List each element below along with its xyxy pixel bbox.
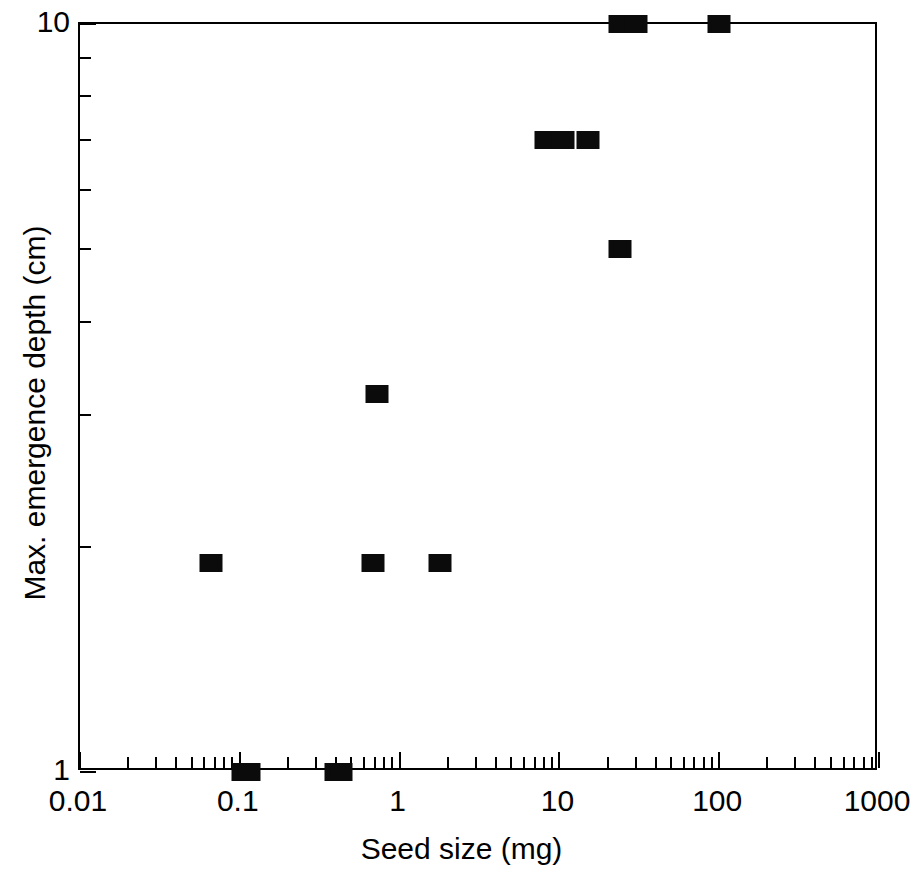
x-axis-minor-tick [191, 757, 193, 768]
x-axis-minor-tick [655, 757, 657, 768]
x-axis-minor-tick [607, 757, 609, 768]
x-axis-minor-tick [683, 757, 685, 768]
x-axis-minor-tick [175, 757, 177, 768]
data-point [199, 554, 222, 572]
x-axis-minor-tick [214, 757, 216, 768]
x-axis-title: Seed size (mg) [0, 832, 923, 866]
x-axis-tick-label: 0.1 [217, 786, 259, 816]
x-axis-tick-label: 1 [389, 786, 406, 816]
x-axis-minor-tick [495, 757, 497, 768]
x-axis-minor-tick [534, 757, 536, 768]
x-axis-minor-tick [711, 757, 713, 768]
scatter-plot-figure: 101 0.010.11101001000 Seed size (mg) Max… [0, 0, 923, 880]
x-axis-minor-tick [635, 757, 637, 768]
x-axis-minor-tick [814, 757, 816, 768]
data-point [238, 763, 261, 781]
data-point [361, 554, 384, 572]
x-axis-tick-label: 1000 [844, 786, 911, 816]
x-axis-tick-label: 100 [692, 786, 742, 816]
data-point [576, 131, 599, 149]
x-axis-minor-tick [203, 757, 205, 768]
x-axis-minor-tick [391, 757, 393, 768]
x-axis-minor-tick [794, 757, 796, 768]
x-axis-minor-tick [843, 757, 845, 768]
y-axis-minor-tick [80, 189, 91, 191]
x-axis-minor-tick [127, 757, 129, 768]
x-axis-minor-tick [551, 757, 553, 768]
x-axis-minor-tick [287, 757, 289, 768]
x-axis-minor-tick [766, 757, 768, 768]
x-axis-major-tick [79, 752, 81, 768]
x-axis-minor-tick [863, 757, 865, 768]
x-axis-minor-tick [363, 757, 365, 768]
y-axis-minor-tick [80, 57, 91, 59]
x-axis-major-tick [878, 752, 880, 768]
x-axis-minor-tick [155, 757, 157, 768]
x-axis-minor-tick [693, 757, 695, 768]
x-axis-major-tick [399, 752, 401, 768]
x-axis-tick-labels: 0.010.11101001000 [0, 786, 923, 826]
data-point [365, 385, 388, 403]
x-axis-major-tick [718, 752, 720, 768]
data-point [429, 554, 452, 572]
x-axis-minor-tick [523, 757, 525, 768]
x-axis-minor-tick [374, 757, 376, 768]
x-axis-minor-tick [703, 757, 705, 768]
data-point [624, 15, 647, 33]
plot-area [78, 22, 877, 770]
x-axis-tick-label: 10 [541, 786, 574, 816]
y-axis-minor-tick [80, 414, 91, 416]
x-axis-minor-tick [853, 757, 855, 768]
y-axis-title: Max. emergence depth (cm) [18, 33, 52, 793]
x-axis-minor-tick [223, 757, 225, 768]
data-point [708, 15, 731, 33]
y-axis-minor-tick [80, 321, 91, 323]
y-axis-major-tick [80, 23, 96, 25]
y-axis-tick-label: 1 [53, 755, 70, 785]
data-point [551, 131, 574, 149]
x-axis-minor-tick [830, 757, 832, 768]
x-axis-minor-tick [447, 757, 449, 768]
data-point [609, 240, 632, 258]
x-axis-minor-tick [510, 757, 512, 768]
x-axis-minor-tick [670, 757, 672, 768]
y-axis-minor-tick [80, 139, 91, 141]
x-axis-minor-tick [475, 757, 477, 768]
y-axis-minor-tick [80, 95, 91, 97]
data-point [330, 763, 353, 781]
x-axis-minor-tick [871, 757, 873, 768]
y-axis-minor-tick [80, 546, 91, 548]
y-axis-major-tick [80, 771, 96, 773]
y-axis-minor-tick [80, 248, 91, 250]
x-axis-tick-label: 0.01 [49, 786, 107, 816]
x-axis-minor-tick [315, 757, 317, 768]
x-axis-minor-tick [543, 757, 545, 768]
x-axis-major-tick [558, 752, 560, 768]
x-axis-minor-tick [383, 757, 385, 768]
